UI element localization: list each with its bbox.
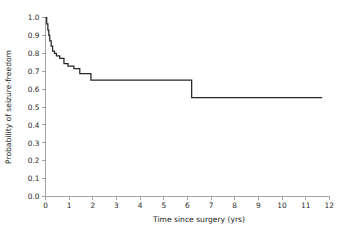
x-tick-label: 1 [67, 201, 72, 210]
x-tick-label: 7 [209, 201, 214, 210]
x-tick-label: 9 [256, 201, 261, 210]
y-tick-label: 0.9 [28, 31, 40, 40]
x-tick-label: 10 [277, 201, 287, 210]
x-tick-label: 8 [232, 201, 237, 210]
survival-curve [46, 18, 323, 98]
chart-figure: 0.00.10.20.30.40.50.60.70.80.91.0 012345… [0, 0, 343, 237]
x-tick-label: 0 [43, 201, 48, 210]
x-tick-label: 11 [301, 201, 311, 210]
x-axis-title: Time since surgery (yrs) [152, 215, 245, 224]
x-tick-label: 6 [185, 201, 190, 210]
x-tick-label: 5 [161, 201, 166, 210]
x-axis-ticks: 0123456789101112 [43, 197, 334, 211]
x-tick-label: 12 [325, 201, 334, 210]
x-tick-label: 2 [90, 201, 95, 210]
y-tick-label: 0.1 [28, 174, 40, 183]
y-tick-label: 0.2 [28, 156, 40, 165]
x-tick-label: 4 [138, 201, 143, 210]
y-tick-label: 0.6 [28, 85, 40, 94]
y-axis-title: Probability of seizure-freedom [4, 50, 13, 164]
km-survival-plot: 0.00.10.20.30.40.50.60.70.80.91.0 012345… [0, 0, 343, 237]
y-tick-label: 0.3 [28, 139, 40, 148]
y-tick-label: 0.5 [28, 103, 40, 112]
y-tick-label: 0.0 [28, 192, 40, 201]
x-tick-label: 3 [114, 201, 119, 210]
y-tick-label: 0.4 [28, 121, 40, 130]
y-tick-label: 0.7 [28, 67, 40, 76]
y-axis-ticks: 0.00.10.20.30.40.50.60.70.80.91.0 [28, 13, 46, 201]
y-tick-label: 1.0 [28, 13, 40, 22]
y-tick-label: 0.8 [28, 49, 40, 58]
